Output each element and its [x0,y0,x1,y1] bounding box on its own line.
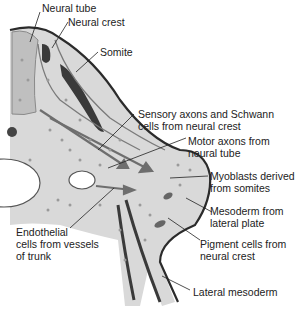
dark-cell [7,127,17,137]
label-endothelial: Endothelial cells from vessels of trunk [16,226,99,262]
label-pigment-cells: Pigment cells from neural crest [200,238,286,262]
label-lateral-mesoderm: Lateral mesoderm [193,286,278,298]
label-myoblasts: Myoblasts derived from somites [210,170,295,194]
neural-tube-shape [12,31,38,115]
vessel-lumen [69,171,95,189]
label-neural-crest: Neural crest [68,16,125,28]
limb-bud-diagram [0,0,299,320]
label-motor-axons: Motor axons from neural tube [188,135,270,159]
label-somite: Somite [100,46,133,58]
tissue-body [10,27,210,306]
label-neural-tube: Neural tube [42,2,96,14]
label-sensory-axons: Sensory axons and Schwann cells from neu… [138,108,274,132]
label-mesoderm-lateral-plate: Mesoderm from lateral plate [210,205,284,229]
